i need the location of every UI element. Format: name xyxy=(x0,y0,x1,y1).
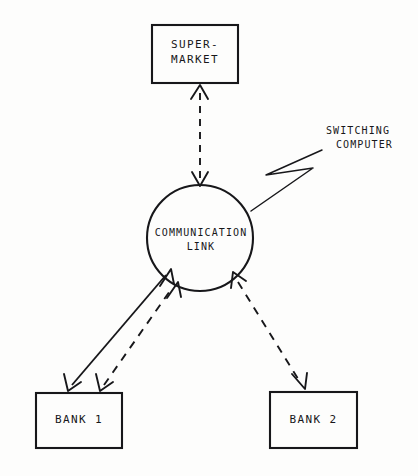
arrowhead-into-bank2 xyxy=(292,373,307,389)
diagram-canvas xyxy=(0,0,418,476)
bank-1-box xyxy=(36,393,122,448)
supermarket-box xyxy=(152,25,238,83)
connector-bank1-link-solid xyxy=(72,275,166,385)
diagram-page: SUPER- MARKET COMMUNICATION LINK BANK 1 … xyxy=(0,0,418,476)
connector-bank2-link-dashed xyxy=(238,282,300,382)
arrowhead-into-bank1-dashed xyxy=(96,374,113,391)
switching-computer-leader-line xyxy=(251,150,322,211)
bank-2-box xyxy=(270,392,357,448)
